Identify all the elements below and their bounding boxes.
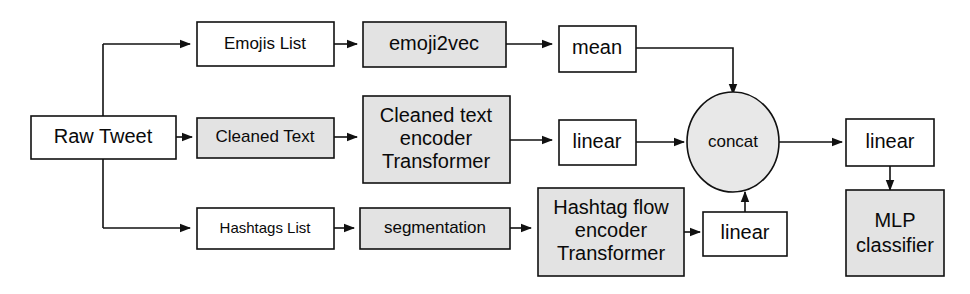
- hashtags-list-label: Hashtags List: [220, 219, 312, 236]
- raw-tweet-label: Raw Tweet: [54, 125, 153, 147]
- node-mlp-classifier[interactable]: MLP classifier: [846, 190, 944, 276]
- hashtag-flow-encoder-line1: Hashtag flow: [553, 196, 669, 218]
- node-emojis-list[interactable]: Emojis List: [197, 22, 334, 66]
- node-segmentation[interactable]: segmentation: [360, 208, 510, 249]
- node-cleaned-text[interactable]: Cleaned Text: [197, 118, 334, 158]
- cleaned-text-encoder-line3: Transformer: [382, 150, 491, 172]
- concat-label: concat: [708, 132, 758, 151]
- node-linear-out[interactable]: linear: [846, 119, 934, 166]
- hashtag-flow-encoder-line3: Transformer: [557, 242, 666, 264]
- mlp-classifier-line2: classifier: [856, 234, 934, 256]
- mean-label: mean: [572, 36, 622, 58]
- cleaned-text-encoder-line2: encoder: [400, 127, 473, 149]
- mlp-classifier-line1: MLP: [874, 209, 915, 231]
- node-concat[interactable]: concat: [687, 92, 779, 192]
- node-raw-tweet[interactable]: Raw Tweet: [31, 116, 176, 159]
- node-mean[interactable]: mean: [559, 26, 636, 72]
- flowchart-canvas: Raw Tweet Emojis List emoji2vec mean Cle…: [0, 0, 970, 294]
- mlp-classifier-box[interactable]: [846, 190, 944, 276]
- architecture-diagram: Raw Tweet Emojis List emoji2vec mean Cle…: [0, 0, 970, 294]
- node-hashtags-list[interactable]: Hashtags List: [197, 208, 334, 249]
- cleaned-text-label: Cleaned Text: [216, 127, 315, 146]
- segmentation-label: segmentation: [384, 218, 486, 237]
- node-emoji2vec[interactable]: emoji2vec: [363, 22, 506, 67]
- linear-text-label: linear: [573, 130, 622, 152]
- linear-out-label: linear: [866, 130, 915, 152]
- node-linear-hashtag[interactable]: linear: [703, 212, 787, 256]
- node-hashtag-flow-encoder[interactable]: Hashtag flow encoder Transformer: [538, 188, 684, 276]
- linear-hashtag-label: linear: [721, 221, 770, 243]
- edge-mean-to-concat: [636, 48, 733, 94]
- emoji2vec-label: emoji2vec: [389, 32, 479, 54]
- node-cleaned-text-encoder[interactable]: Cleaned text encoder Transformer: [363, 96, 510, 183]
- emojis-list-label: Emojis List: [224, 34, 306, 53]
- cleaned-text-encoder-line1: Cleaned text: [380, 104, 493, 126]
- hashtag-flow-encoder-line2: encoder: [575, 219, 648, 241]
- node-linear-text[interactable]: linear: [559, 120, 636, 165]
